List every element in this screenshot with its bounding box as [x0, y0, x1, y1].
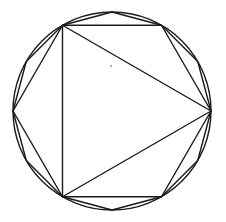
inscribed-dodecagon [13, 12, 211, 210]
diagram-canvas [0, 0, 226, 222]
center-marker-dot [110, 65, 113, 68]
inscribed-hexagon [13, 25, 211, 196]
inscribed-triangle [63, 25, 212, 196]
circumscribed-circle [13, 12, 211, 210]
